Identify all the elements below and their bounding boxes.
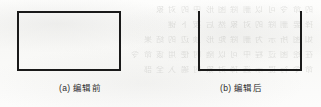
caption-text-b: 编辑后: [234, 83, 263, 93]
caption-panel-b: (b)编辑后: [161, 82, 321, 94]
caption-label-b: (b): [220, 83, 232, 93]
rectangle-closed-shape: [17, 11, 121, 71]
rectangle-open-shape: [198, 11, 302, 71]
figure-container: 的 命 令 可 以 删 除 图 形 中 的 对 象 择 要 删 除 的 对 象 …: [0, 0, 321, 107]
caption-label-a: (a): [59, 83, 71, 93]
caption-text-a: 编辑前: [73, 83, 102, 93]
figure-panel-b: (b)编辑后: [161, 0, 321, 107]
caption-panel-a: (a)编辑前: [0, 82, 160, 94]
figure-panel-a: (a)编辑前: [0, 0, 160, 107]
